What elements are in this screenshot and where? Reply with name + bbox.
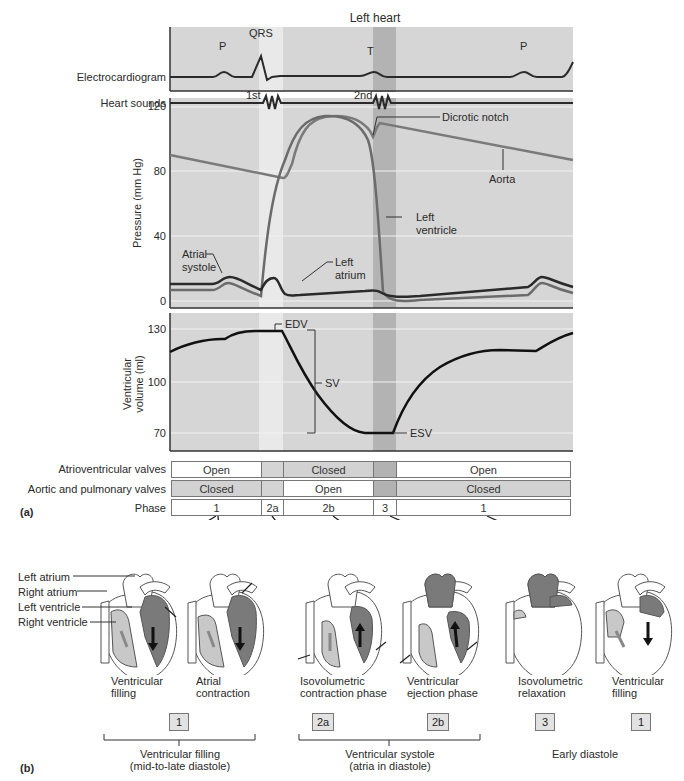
av-cell-phase2a: [262, 462, 284, 477]
left-atrium-structure-label: Left atrium: [18, 571, 70, 583]
ecg-panel: [170, 27, 573, 91]
group-early-diastole: Early diastole: [535, 748, 635, 760]
phase-cell-1-late: 1: [397, 500, 570, 515]
stage-1-caption: Ventricularfilling: [111, 675, 163, 699]
phase-cell-2a: 2a: [262, 500, 284, 515]
heart-illustrations: [0, 555, 684, 675]
av-cell-phase1: Open: [172, 462, 262, 477]
heart-atrial-contraction: [188, 574, 264, 675]
semilunar-valves-row: Closed Open Closed: [171, 480, 571, 497]
atrial-systole-label-1: Atrial: [182, 248, 207, 260]
group-ventricular-systole: Ventricular systole(atria in diastole): [320, 748, 460, 772]
stage-1-late-caption: Ventricularfilling: [612, 675, 664, 699]
pressure-tick-40: 40: [140, 230, 166, 242]
second-heart-sound-label: 2nd: [354, 89, 372, 101]
pressure-tick-80: 80: [140, 165, 166, 177]
semilunar-valves-label: Aortic and pulmonary valves: [0, 483, 166, 495]
pressure-axis-label: Pressure (mm Hg): [131, 143, 143, 263]
aorta-label: Aorta: [489, 173, 515, 185]
right-ventricle-structure-label: Right ventricle: [18, 616, 88, 628]
av-cell-phase2b: Closed: [284, 462, 374, 477]
volume-tick-130: 130: [136, 323, 166, 335]
first-heart-sound-label: 1st: [246, 89, 261, 101]
left-ventricle-structure-label: Left ventricle: [18, 601, 80, 613]
stage-2-caption: Atrialcontraction: [196, 675, 250, 699]
heart-isovolumetric-relaxation: [506, 574, 582, 675]
ecg-row-label: Electrocardiogram: [40, 71, 166, 83]
edv-label: EDV: [285, 318, 308, 330]
phase-cell-3: 3: [374, 500, 397, 515]
group-ventricular-filling: Ventricular filling(mid-to-late diastole…: [110, 748, 250, 772]
left-ventricle-label-1: Left: [416, 211, 434, 223]
p-wave-label-2: P: [520, 40, 527, 52]
qrs-label: QRS: [249, 27, 273, 39]
av-valves-row: Open Closed Open: [171, 461, 571, 478]
atrial-systole-label-2: systole: [182, 261, 216, 273]
panel-a-label: (a): [20, 506, 33, 518]
panel-b-label: (b): [20, 762, 34, 774]
stage-2a-caption: Isovolumetriccontraction phase: [300, 675, 387, 699]
sl-cell-phase1-late: Closed: [397, 481, 570, 496]
heart-ventricular-filling: [101, 574, 177, 675]
sl-cell-phase1: Closed: [172, 481, 262, 496]
av-cell-phase3: [374, 462, 397, 477]
sl-cell-phase3: [374, 481, 397, 496]
phase-box-1: 1: [169, 713, 189, 731]
pressure-tick-120: 120: [140, 100, 166, 112]
heart-ventricular-ejection: [403, 574, 479, 675]
heart-isovolumetric-contraction: [306, 574, 382, 675]
sl-cell-phase2a: [262, 481, 284, 496]
pressure-tick-0: 0: [140, 295, 166, 307]
left-atrium-label-2: atrium: [335, 269, 366, 281]
stage-2b-caption: Ventricularejection phase: [407, 675, 478, 699]
heart-sounds-line: [0, 0, 170, 103]
phase-row: 1 2a 2b 3 1: [171, 499, 571, 516]
sl-cell-phase2b: Open: [284, 481, 374, 496]
phase-box-2a: 2a: [312, 713, 334, 731]
phase-arrows: [140, 516, 603, 520]
dicrotic-notch-label: Dicrotic notch: [442, 111, 509, 123]
left-ventricle-label-2: ventricle: [416, 224, 457, 236]
phase-box-3: 3: [535, 713, 555, 731]
group-brackets: [0, 730, 684, 750]
volume-axis-label: Ventricular volume (ml): [121, 339, 149, 429]
phase-box-2b: 2b: [427, 713, 449, 731]
esv-label: ESV: [410, 427, 432, 439]
heart-ventricular-filling-2: [596, 574, 672, 675]
phase-box-1-late: 1: [631, 713, 651, 731]
av-cell-phase1-late: Open: [397, 462, 570, 477]
left-atrium-label-1: Left: [335, 256, 353, 268]
p-wave-label: P: [219, 40, 226, 52]
sv-label: SV: [325, 377, 340, 389]
phase-cell-2b: 2b: [284, 500, 374, 515]
right-atrium-structure-label: Right atrium: [18, 586, 77, 598]
phase-cell-1: 1: [172, 500, 262, 515]
av-valves-label: Atrioventricular valves: [0, 463, 166, 475]
stage-3-caption: Isovolumetricrelaxation: [518, 675, 583, 699]
t-wave-label: T: [367, 45, 374, 57]
